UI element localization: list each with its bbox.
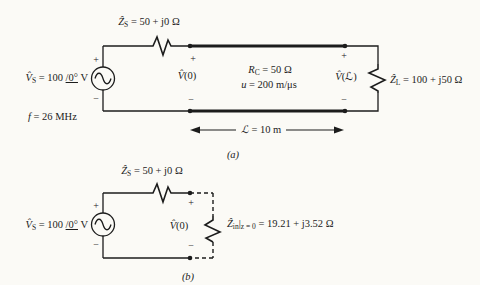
velocity-label: u = 200 m/μs xyxy=(241,79,297,91)
sending-plus-sign-b: + xyxy=(188,198,194,208)
node-dot xyxy=(188,256,193,261)
velocity-value: = 200 m/μs xyxy=(246,79,296,90)
source-plus-sign-b: + xyxy=(93,201,99,211)
receiving-voltage-label: V̂(ℒ) xyxy=(335,71,356,83)
source-voltage-label-b: V̂S = 100 /0° V xyxy=(10,219,88,232)
resistance-value: = 50 Ω xyxy=(260,64,292,75)
source-minus-sign-b: − xyxy=(93,240,99,250)
impedance-value: = 50 + j0 Ω xyxy=(131,165,182,176)
node-dot xyxy=(188,44,193,49)
sending-minus-sign-b: − xyxy=(188,241,194,251)
phase-angle: /0° xyxy=(66,72,78,83)
node-dot xyxy=(188,191,193,196)
caption-a: (a) xyxy=(227,149,239,161)
sending-voltage-label-b: V̂(0) xyxy=(170,220,189,232)
source-plus-sign-a: + xyxy=(93,55,99,65)
sending-minus-sign-a: − xyxy=(188,95,194,105)
phase-angle: /0° xyxy=(66,219,78,230)
impedance-value: = 100 + j50 Ω xyxy=(400,74,462,85)
frequency-value: = 26 MHz xyxy=(31,111,77,122)
receiving-plus-sign: + xyxy=(341,51,347,61)
node-dot xyxy=(343,109,348,114)
evaluation-condition: z = 0 xyxy=(241,222,256,231)
voltage-unit: V xyxy=(78,72,88,83)
node-dot xyxy=(188,109,193,114)
impedance-value: = 19.21 + j3.52 Ω xyxy=(256,218,334,229)
impedance-value: = 50 + j0 Ω xyxy=(128,16,179,27)
voltage-value: = 100 xyxy=(36,219,66,230)
load-impedance-label: ẐL = 100 + j50 Ω xyxy=(390,74,462,87)
line-length-label: ℒ = 10 m xyxy=(238,124,284,136)
source-impedance-label-a: ẐS = 50 + j0 Ω xyxy=(118,16,179,29)
source-resistor-icon-a xyxy=(146,37,190,55)
arrowhead-right-icon xyxy=(334,127,344,134)
voltage-value: = 100 xyxy=(36,72,66,83)
sine-wave-icon xyxy=(95,219,111,230)
wire-bottom-right-a xyxy=(345,93,378,111)
voltage-argument: (0) xyxy=(176,220,188,231)
wire-top-right-a xyxy=(345,46,378,64)
frequency-label: f = 26 MHz xyxy=(28,111,77,123)
circuit-b xyxy=(92,184,221,260)
char-resistance-label: RC = 50 Ω xyxy=(248,64,292,77)
sine-wave-icon xyxy=(95,73,111,84)
source-resistor-icon-b xyxy=(146,184,190,202)
load-resistor-icon xyxy=(369,64,385,93)
input-impedance-label: Ẑin|z = 0 = 19.21 + j3.52 Ω xyxy=(227,218,334,231)
node-dot xyxy=(343,44,348,49)
source-minus-sign-a: − xyxy=(93,94,99,104)
voltage-unit: V xyxy=(78,219,88,230)
receiving-minus-sign: − xyxy=(341,95,347,105)
voltage-argument: (ℒ) xyxy=(342,71,357,82)
input-impedance-resistor-icon xyxy=(205,216,220,242)
sending-plus-sign-a: + xyxy=(190,54,196,64)
caption-b: (b) xyxy=(182,271,194,283)
voltage-argument: (0) xyxy=(184,70,196,81)
length-value: = 10 m xyxy=(249,124,281,135)
schematic-canvas xyxy=(0,0,480,285)
source-impedance-label-b: ẐS = 50 + j0 Ω xyxy=(121,165,182,178)
sending-voltage-label-a: V̂(0) xyxy=(178,70,197,82)
arrowhead-left-icon xyxy=(190,127,200,134)
source-voltage-label-a: V̂S = 100 /0° V xyxy=(10,72,88,85)
length-symbol: ℒ xyxy=(241,124,249,135)
figure-transmission-line-circuit: V̂S = 100 /0° V f = 26 MHz ẐS = 50 + j0 … xyxy=(0,0,480,285)
